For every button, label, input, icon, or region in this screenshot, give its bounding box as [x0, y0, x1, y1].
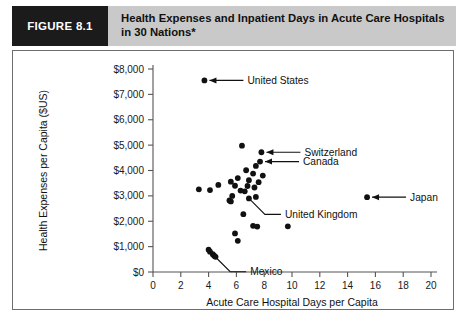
x-tick-label: 4 [206, 280, 212, 291]
x-tick-label: 14 [342, 280, 354, 291]
data-point [254, 224, 260, 230]
figure-title: Health Expenses and Inpatient Days in Ac… [108, 6, 456, 46]
data-point [239, 143, 245, 149]
scatter-plot: $0$1,000$2,000$3,000$4,000$5,000$6,000$7… [13, 51, 453, 309]
y-tick-label: $0 [133, 267, 145, 278]
data-point [257, 159, 263, 165]
annotation-japan: Japan [372, 192, 438, 203]
annotation-label: Canada [303, 156, 339, 167]
data-point [207, 187, 213, 193]
data-point [245, 183, 251, 189]
y-tick-label: $1,000 [113, 241, 144, 252]
data-point [246, 177, 252, 183]
y-tick-label: $2,000 [113, 216, 144, 227]
x-tick-label: 20 [425, 280, 437, 291]
figure-container: FIGURE 8.1 Health Expenses and Inpatient… [0, 0, 468, 321]
data-point [253, 194, 259, 200]
annotation-arrowhead [266, 149, 273, 155]
y-tick-label: $6,000 [113, 114, 144, 125]
annotation-leader-line [216, 258, 246, 272]
x-tick-label: 12 [314, 280, 326, 291]
y-tick-label: $8,000 [113, 64, 144, 75]
data-point [232, 183, 238, 189]
data-point [235, 238, 241, 244]
y-tick-label: $4,000 [113, 165, 144, 176]
annotation-canada: Canada [265, 156, 339, 167]
chart-frame: $0$1,000$2,000$3,000$4,000$5,000$6,000$7… [12, 50, 454, 310]
y-tick-label: $3,000 [113, 190, 144, 201]
figure-number-tag: FIGURE 8.1 [12, 6, 108, 46]
annotation-arrowhead [265, 159, 272, 165]
figure-header: FIGURE 8.1 Health Expenses and Inpatient… [12, 6, 456, 46]
annotation-mexico: Mexico [216, 258, 283, 278]
data-point [260, 173, 266, 179]
x-tick-label: 18 [398, 280, 410, 291]
data-point [253, 163, 259, 169]
x-tick-label: 8 [261, 280, 267, 291]
data-point [240, 211, 246, 217]
data-point [228, 179, 234, 185]
x-tick-label: 10 [286, 280, 298, 291]
data-point [235, 175, 241, 181]
annotation-arrowhead [372, 194, 379, 200]
data-point [364, 194, 370, 200]
y-tick-label: $5,000 [113, 140, 144, 151]
annotation-label: Japan [410, 192, 438, 203]
annotation-label: United States [247, 75, 308, 86]
annotation-united-states: United States [209, 75, 308, 86]
annotation-label: United Kingdom [285, 209, 358, 220]
data-point [285, 223, 291, 229]
annotation-leader-line [251, 200, 281, 214]
annotation-label: Mexico [250, 266, 283, 277]
x-tick-label: 6 [234, 280, 240, 291]
annotation-united-kingdom: United Kingdom [251, 200, 358, 220]
data-point [196, 186, 202, 192]
x-tick-label: 16 [370, 280, 382, 291]
annotation-arrowhead [209, 77, 216, 83]
data-point [250, 171, 256, 177]
data-point [243, 167, 249, 173]
data-point [242, 188, 248, 194]
data-point [259, 149, 265, 155]
data-point [215, 182, 221, 188]
data-point [228, 199, 234, 205]
x-tick-label: 2 [178, 280, 184, 291]
data-point [202, 78, 208, 84]
x-axis-title: Acute Care Hospital Days per Capita [206, 296, 378, 308]
x-tick-label: 0 [150, 280, 156, 291]
y-tick-label: $7,000 [113, 89, 144, 100]
y-axis-title: Health Expenses per Capita ($US) [37, 90, 49, 251]
data-point [232, 231, 238, 237]
data-point [256, 179, 262, 185]
data-point [252, 185, 258, 191]
